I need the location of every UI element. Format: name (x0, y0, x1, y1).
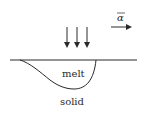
vector-label: α (117, 12, 124, 23)
solid-label: solid (60, 96, 85, 107)
incoming-arrows (67, 27, 87, 45)
velocity-vector: α (111, 12, 129, 27)
melt-pool-diagram: α melt solid (0, 0, 144, 122)
melt-label: melt (62, 68, 85, 79)
